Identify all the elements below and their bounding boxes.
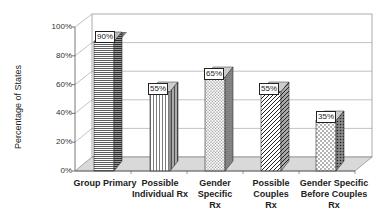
bar-possible-individual: [150, 82, 178, 171]
y-tick-0: 0%: [44, 166, 72, 175]
bar-chart: Percentage of States 100% 80% 60% 40% 20…: [0, 0, 389, 219]
value-label: 90%: [95, 31, 115, 43]
bar-gender-specific: [205, 67, 233, 171]
bar-possible-couples: [261, 82, 289, 171]
y-tick-60: 60%: [44, 80, 72, 89]
value-label: 55%: [259, 83, 279, 95]
y-tick-20: 20%: [44, 137, 72, 146]
value-label: 65%: [204, 68, 224, 80]
x-category-label: Gender SpecificBefore CouplesRx: [294, 178, 374, 211]
y-axis-label: Percentage of States: [13, 57, 23, 157]
y-tick-80: 80%: [44, 51, 72, 60]
y-tick-100: 100%: [44, 22, 72, 31]
y-tick-40: 40%: [44, 108, 72, 117]
value-label: 35%: [316, 111, 336, 123]
bar-group-primary: [94, 32, 127, 171]
value-label: 55%: [148, 83, 168, 95]
